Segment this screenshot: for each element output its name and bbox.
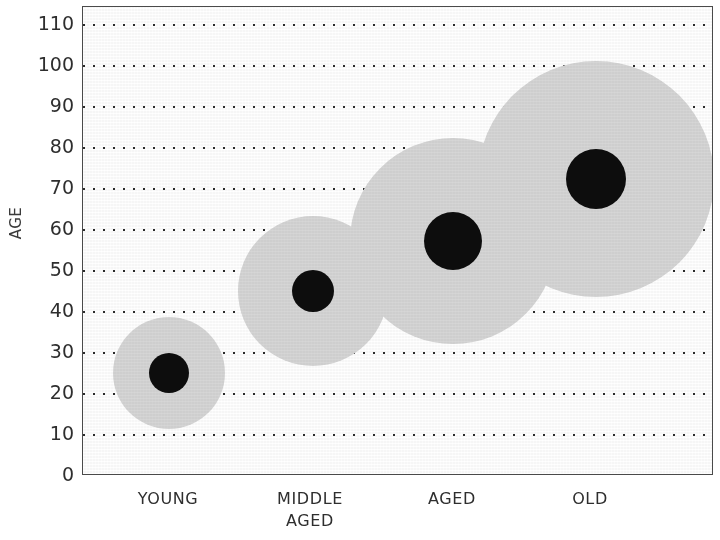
y-tick-80: 80 xyxy=(2,137,74,156)
gridline-110 xyxy=(83,24,712,26)
bubble-chart: AGE 110 100 90 80 70 60 50 40 30 20 10 0 xyxy=(0,0,720,540)
y-tick-30: 30 xyxy=(2,342,74,361)
gridline-10 xyxy=(83,434,712,436)
x-tick-old: OLD xyxy=(500,488,680,510)
y-tick-70: 70 xyxy=(2,178,74,197)
y-tick-50: 50 xyxy=(2,260,74,279)
bubble-core-old xyxy=(566,149,626,209)
y-tick-110: 110 xyxy=(2,14,74,33)
bubble-core-young xyxy=(149,353,189,393)
y-tick-40: 40 xyxy=(2,301,74,320)
y-axis-tick-labels: 110 100 90 80 70 60 50 40 30 20 10 0 xyxy=(0,0,74,540)
plot-area xyxy=(82,6,713,475)
x-tick-young-line1: YOUNG xyxy=(138,489,199,508)
bubble-core-middle-aged xyxy=(292,270,334,312)
x-tick-middle-aged-line2: AGED xyxy=(220,510,400,532)
x-tick-old-line1: OLD xyxy=(572,489,608,508)
y-tick-10: 10 xyxy=(2,424,74,443)
bubble-core-aged xyxy=(424,212,482,270)
y-tick-60: 60 xyxy=(2,219,74,238)
y-tick-20: 20 xyxy=(2,383,74,402)
y-tick-100: 100 xyxy=(2,55,74,74)
y-tick-0: 0 xyxy=(2,465,74,484)
x-tick-aged-line1: AGED xyxy=(428,489,476,508)
y-tick-90: 90 xyxy=(2,96,74,115)
x-tick-middle-aged-line1: MIDDLE xyxy=(277,489,343,508)
